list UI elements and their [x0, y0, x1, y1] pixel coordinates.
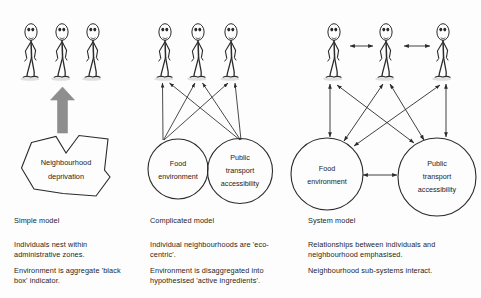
- node-food-environment-system: Food environment: [291, 138, 363, 210]
- stick-figure-icon: [154, 24, 173, 81]
- polygon-label-line2: deprivation: [48, 172, 84, 181]
- neighbourhood-deprivation-polygon: Neighbourhood deprivation: [22, 136, 111, 197]
- panel-simple-people: [20, 24, 101, 81]
- caption-line: hypothesised 'active ingredients'.: [150, 276, 260, 285]
- caption-title-simple: Simple model: [14, 216, 59, 225]
- caption-line: box' indicator.: [14, 276, 60, 285]
- caption-body-complicated-1: Individual neighbourhoods are 'eco- cent…: [150, 240, 269, 259]
- caption-body-simple-1: Individuals nest within administrative z…: [14, 240, 87, 259]
- stick-figure-icon: [20, 24, 39, 81]
- node-label-line2: transport: [423, 172, 451, 181]
- node-label-line1: Public: [230, 153, 250, 162]
- node-public-transport-complicated: Public transport accessibility: [208, 139, 273, 204]
- caption-body-system-2: Neighbourhood sub-systems interact.: [308, 266, 432, 276]
- node-label-line3: accessibility: [221, 179, 260, 188]
- stick-figure-icon: [323, 24, 342, 81]
- caption-line: neighbourhood emphasised.: [308, 250, 403, 259]
- caption-line: Environment is disaggregated into: [150, 266, 264, 275]
- caption-line: Environment is aggregate 'black: [14, 266, 121, 275]
- stick-figure-icon: [220, 24, 239, 81]
- node-label-line2: transport: [226, 166, 254, 175]
- caption-title-complicated: Complicated model: [150, 216, 214, 225]
- caption-title-system: System model: [308, 216, 355, 225]
- complicated-arrows: [163, 83, 242, 140]
- caption-line: Relationships between individuals and: [308, 240, 435, 249]
- panel-complicated-people: [154, 24, 239, 81]
- panel-system-people: [323, 24, 451, 81]
- stick-figure-icon: [375, 24, 394, 81]
- caption-body-complicated-2: Environment is disaggregated into hypoth…: [150, 266, 264, 285]
- node-label-line2: environment: [307, 177, 347, 186]
- caption-line: Neighbourhood sub-systems interact.: [308, 266, 432, 275]
- upward-block-arrow-icon: [51, 87, 75, 133]
- stick-figure-icon: [51, 24, 70, 81]
- node-food-environment-complicated: Food environment: [148, 139, 208, 199]
- node-label-line1: Food: [170, 159, 186, 168]
- caption-line: Individuals nest within: [14, 240, 87, 249]
- caption-body-system-1: Relationships between individuals and ne…: [308, 240, 435, 259]
- caption-line: Individual neighbourhoods are 'eco-: [150, 240, 269, 249]
- polygon-label-line1: Neighbourhood: [41, 158, 92, 167]
- node-label-line2: environment: [158, 172, 198, 181]
- caption-body-simple-2: Environment is aggregate 'black box' ind…: [14, 266, 121, 285]
- node-label-line1: Food: [319, 164, 335, 173]
- stick-figure-icon: [432, 24, 451, 81]
- system-node-person-arrows: [330, 84, 446, 146]
- node-label-line1: Public: [427, 159, 447, 168]
- caption-line: administrative zones.: [14, 250, 85, 259]
- stick-figure-icon: [82, 24, 101, 81]
- caption-line: centric'.: [150, 250, 176, 259]
- node-public-transport-system: Public transport accessibility: [398, 138, 476, 216]
- node-label-line3: accessibility: [418, 185, 457, 194]
- stick-figure-icon: [187, 24, 206, 81]
- diagram-canvas: Neighbourhood deprivation Food environme…: [0, 0, 481, 298]
